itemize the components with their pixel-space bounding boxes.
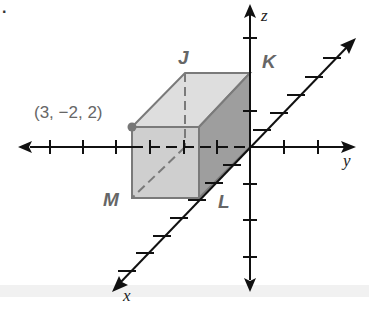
point-coordinate-label: (3, −2, 2) [34, 104, 103, 121]
z-axis-label: z [261, 7, 268, 24]
z-axis-negative-arrow-icon [244, 278, 256, 292]
point-marker [128, 123, 137, 132]
vertex-label-k: K [262, 52, 276, 71]
x-axis-label: x [123, 287, 131, 304]
y-axis-negative-arrow-icon [18, 141, 32, 153]
y-axis-label: y [343, 152, 351, 169]
problem-number: . [2, 0, 6, 16]
vertex-label-j: J [178, 48, 189, 67]
vertex-label-l: L [218, 192, 230, 211]
vertex-label-m: M [103, 190, 119, 209]
